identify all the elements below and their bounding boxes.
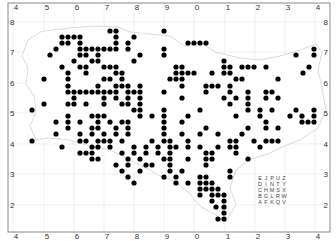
record-dot	[263, 89, 268, 94]
x-tick-label-top: 3	[286, 3, 291, 12]
record-dot	[119, 70, 124, 75]
record-dot	[89, 150, 94, 155]
record-dot	[65, 40, 70, 45]
record-dot	[113, 95, 118, 100]
record-dot	[131, 107, 136, 112]
record-dot	[155, 144, 160, 149]
record-dot	[305, 119, 310, 124]
record-dot	[83, 89, 88, 94]
record-dot	[101, 64, 106, 69]
record-dot	[221, 210, 226, 215]
record-dot	[185, 40, 190, 45]
x-tick-label-bottom: 8	[135, 232, 140, 241]
legend-letter: V	[282, 199, 286, 205]
record-dot	[245, 156, 250, 161]
record-dot	[125, 162, 130, 167]
x-tick-label-top: 6	[75, 3, 80, 12]
record-dot	[95, 58, 100, 63]
record-dot	[77, 34, 82, 39]
y-tick-label-left: 2	[10, 201, 15, 210]
record-dot	[119, 83, 124, 88]
record-dot	[215, 186, 220, 191]
record-dot	[119, 119, 124, 124]
x-tick-label-bottom: 3	[286, 232, 291, 241]
record-dot	[161, 89, 166, 94]
legend-letter: A	[258, 199, 262, 205]
x-tick-label-bottom: 1	[226, 232, 231, 241]
record-dot	[131, 34, 136, 39]
y-tick-label-left: 7	[10, 48, 15, 57]
record-dot	[197, 131, 202, 136]
record-dot	[179, 168, 184, 173]
record-dot	[179, 131, 184, 136]
record-dot	[227, 89, 232, 94]
record-dot	[53, 131, 58, 136]
record-dot	[179, 76, 184, 81]
record-dot	[113, 40, 118, 45]
record-dot	[131, 89, 136, 94]
x-tick-label-top: 2	[256, 3, 261, 12]
record-dot	[77, 150, 82, 155]
record-dot	[161, 131, 166, 136]
record-dot	[113, 89, 118, 94]
record-dot	[161, 113, 166, 118]
record-dot	[221, 64, 226, 69]
record-dot	[77, 40, 82, 45]
record-dot	[161, 107, 166, 112]
record-dot	[311, 46, 316, 51]
record-dot	[203, 89, 208, 94]
record-dot	[203, 186, 208, 191]
record-dot	[209, 150, 214, 155]
record-dot	[173, 144, 178, 149]
record-dot	[101, 95, 106, 100]
record-dot	[161, 119, 166, 124]
record-dot	[245, 89, 250, 94]
record-dot	[125, 46, 130, 51]
record-dot	[167, 162, 172, 167]
record-dot	[41, 101, 46, 106]
record-dot	[137, 113, 142, 118]
record-dot	[119, 138, 124, 143]
record-dot	[263, 64, 268, 69]
record-dot	[311, 119, 316, 124]
x-tick-label-bottom: 6	[75, 232, 80, 241]
record-dot	[251, 138, 256, 143]
record-dot	[101, 113, 106, 118]
record-dot	[245, 101, 250, 106]
record-dot	[197, 186, 202, 191]
record-dot	[65, 101, 70, 106]
record-dot	[65, 76, 70, 81]
record-dot	[167, 150, 172, 155]
record-dot	[53, 119, 58, 124]
record-dot	[209, 192, 214, 197]
record-dot	[173, 180, 178, 185]
y-tick-label-right: 6	[324, 79, 329, 88]
record-dot	[167, 144, 172, 149]
record-dot	[227, 83, 232, 88]
record-dot	[107, 28, 112, 33]
record-dot	[89, 144, 94, 149]
record-dot	[101, 89, 106, 94]
record-dot	[215, 131, 220, 136]
x-tick-label-bottom: 2	[256, 232, 261, 241]
record-dot	[185, 113, 190, 118]
record-dot	[119, 76, 124, 81]
record-dot	[275, 138, 280, 143]
record-dot	[185, 70, 190, 75]
record-dot	[287, 113, 292, 118]
record-dot	[77, 46, 82, 51]
record-dot	[161, 174, 166, 179]
tetrad-legend-grid: EJPUZDINTYCHMSXBGLRWAFKQV	[256, 174, 288, 206]
y-tick-label-left: 6	[10, 79, 15, 88]
record-dot	[191, 40, 196, 45]
record-dot	[119, 168, 124, 173]
record-dot	[83, 52, 88, 57]
record-dot	[185, 138, 190, 143]
record-dot	[300, 70, 305, 75]
y-tick-label-left: 3	[10, 170, 15, 179]
record-dot	[263, 125, 268, 130]
record-dot	[107, 138, 112, 143]
record-dot	[233, 113, 238, 118]
y-tick-label-right: 2	[324, 201, 329, 210]
record-dot	[137, 101, 142, 106]
